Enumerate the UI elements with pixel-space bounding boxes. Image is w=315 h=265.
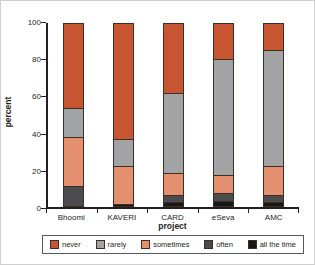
legend-label-all-the-time: all the time bbox=[260, 240, 296, 249]
bar-AMC bbox=[263, 23, 284, 207]
y-axis-tick-mark bbox=[41, 96, 46, 97]
legend-swatch-all-the-time bbox=[248, 240, 257, 249]
bar-segment-never bbox=[214, 24, 233, 59]
y-axis-tick-label: 20 bbox=[17, 167, 41, 177]
bar-slot-eSeva bbox=[199, 23, 249, 207]
bar-segment-sometimes bbox=[164, 173, 183, 195]
legend-swatch-rarely bbox=[96, 240, 105, 249]
plot-area bbox=[46, 23, 299, 209]
bar-Bhoomi bbox=[63, 23, 84, 207]
bar-slot-CARD bbox=[148, 23, 198, 207]
y-axis-tick-mark bbox=[41, 171, 46, 172]
bar-segment-often bbox=[214, 193, 233, 200]
bar-CARD bbox=[163, 23, 184, 207]
bar-segment-all-the-time bbox=[264, 202, 283, 206]
bar-eSeva bbox=[213, 23, 234, 207]
legend-label-rarely: rarely bbox=[108, 240, 127, 249]
bar-KAVERI bbox=[113, 23, 134, 207]
bar-segment-never bbox=[164, 24, 183, 93]
stacked-bar-chart-figure: 020406080100 BhoomiKAVERICARDeSevaAMC pe… bbox=[0, 0, 315, 265]
bar-segment-often bbox=[64, 186, 83, 206]
legend-swatch-never bbox=[50, 240, 59, 249]
bar-segment-never bbox=[264, 24, 283, 49]
bar-segment-all-the-time bbox=[214, 201, 233, 206]
bar-segment-rarely bbox=[114, 139, 133, 166]
legend-label-sometimes: sometimes bbox=[153, 240, 189, 249]
bar-segment-rarely bbox=[64, 108, 83, 137]
bar-segment-sometimes bbox=[214, 175, 233, 193]
bar-segment-rarely bbox=[164, 93, 183, 173]
y-axis-tick-label: 80 bbox=[17, 55, 41, 65]
legend: neverrarelysometimesoftenall the time bbox=[42, 235, 304, 254]
legend-swatch-sometimes bbox=[141, 240, 150, 249]
y-axis-tick-mark bbox=[41, 134, 46, 135]
bar-slot-Bhoomi bbox=[48, 23, 98, 207]
y-axis-tick-label: 100 bbox=[17, 18, 41, 28]
bar-segment-sometimes bbox=[114, 166, 133, 204]
legend-swatch-often bbox=[204, 240, 213, 249]
bar-segment-sometimes bbox=[264, 166, 283, 195]
bar-segment-never bbox=[114, 24, 133, 139]
legend-item-often: often bbox=[204, 240, 233, 249]
y-axis-title: percent bbox=[3, 67, 13, 157]
bar-segment-rarely bbox=[264, 50, 283, 166]
legend-item-never: never bbox=[50, 240, 81, 249]
bar-segment-rarely bbox=[214, 59, 233, 175]
bar-segment-never bbox=[64, 24, 83, 108]
y-axis-tick-mark bbox=[41, 22, 46, 23]
legend-label-never: never bbox=[62, 240, 81, 249]
bar-slot-AMC bbox=[249, 23, 299, 207]
legend-item-rarely: rarely bbox=[96, 240, 127, 249]
bar-slot-KAVERI bbox=[98, 23, 148, 207]
y-axis-tick-label: 40 bbox=[17, 130, 41, 140]
legend-item-all-the-time: all the time bbox=[248, 240, 296, 249]
bars-layer bbox=[48, 23, 299, 207]
y-axis-tick-label: 0 bbox=[17, 204, 41, 214]
bar-segment-all-the-time bbox=[164, 202, 183, 206]
y-axis-tick-mark bbox=[41, 59, 46, 60]
legend-item-sometimes: sometimes bbox=[141, 240, 189, 249]
x-axis-title: project bbox=[46, 221, 299, 231]
bar-segment-all-the-time bbox=[114, 204, 133, 206]
y-axis-tick-label: 60 bbox=[17, 92, 41, 102]
bar-segment-often bbox=[164, 195, 183, 202]
bar-segment-sometimes bbox=[64, 137, 83, 186]
bar-segment-often bbox=[264, 195, 283, 202]
legend-label-often: often bbox=[216, 240, 233, 249]
